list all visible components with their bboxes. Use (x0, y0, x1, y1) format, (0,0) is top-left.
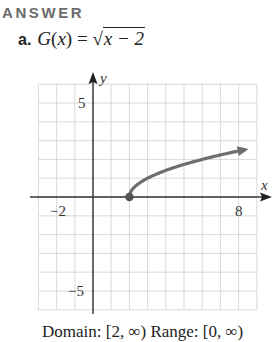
x-tick-8: 8 (235, 203, 243, 219)
start-point-dot (125, 193, 133, 201)
x-axis-label: x (260, 177, 268, 193)
x-tick-neg2: −2 (50, 203, 66, 219)
y-axis (89, 72, 98, 314)
y-axis-label: y (98, 70, 107, 86)
curve-arrow-icon (237, 146, 249, 156)
domain-range-caption: Domain: [2, ∞) Range: [0, ∞) (42, 322, 243, 342)
y-tick-5: 5 (78, 95, 86, 111)
x-axis (30, 193, 272, 202)
y-tick-neg5: −5 (68, 283, 84, 299)
function-curve (129, 150, 244, 197)
